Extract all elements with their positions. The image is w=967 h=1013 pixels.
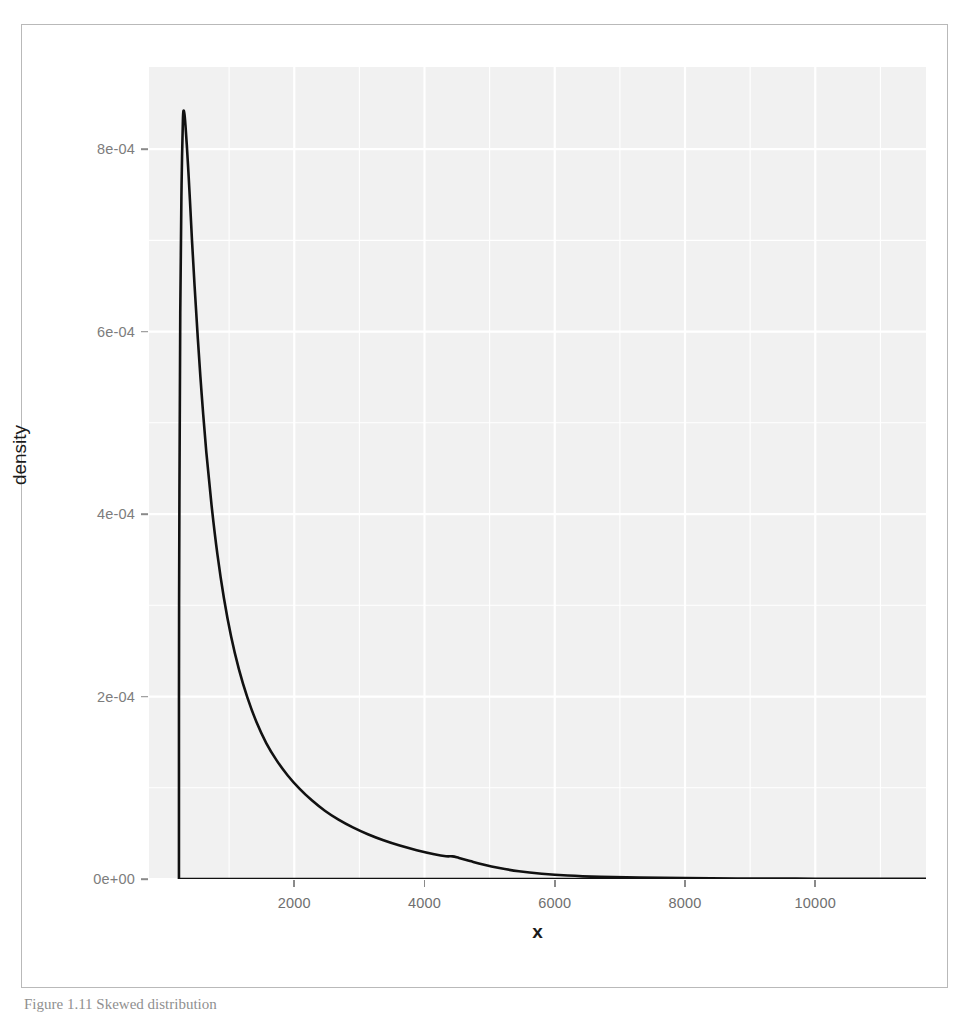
figure-frame: 0e+002e-044e-046e-048e-04 density 200040… [21,24,948,988]
y-tick-label: 2e-04 [61,689,135,705]
x-tick-mark [293,880,295,887]
y-tick-mark [141,878,148,880]
grid-minor [149,67,926,879]
x-tick-label: 2000 [254,895,334,911]
x-tick-mark [684,880,686,887]
density-curve [179,110,926,879]
y-axis-title: density [9,395,31,515]
y-tick-mark [141,331,148,333]
y-tick-label: 6e-04 [61,324,135,340]
x-tick-label: 8000 [645,895,725,911]
grid-major [149,67,926,879]
x-tick-mark [814,880,816,887]
figure-caption: Figure 1.11 Skewed distribution [24,996,217,1013]
y-tick-label: 8e-04 [61,141,135,157]
x-tick-label: 6000 [515,895,595,911]
y-tick-mark [141,148,148,150]
x-tick-label: 4000 [384,895,464,911]
x-tick-mark [424,880,426,887]
y-tick-mark [141,513,148,515]
plot-panel [149,67,926,879]
plot-canvas [149,67,926,879]
density-plot: 0e+002e-044e-046e-048e-04 density 200040… [22,25,949,989]
y-tick-label: 0e+00 [61,871,135,887]
y-tick-label: 4e-04 [61,506,135,522]
x-axis-title: x [149,921,926,943]
x-tick-label: 10000 [775,895,855,911]
x-tick-mark [554,880,556,887]
y-tick-mark [141,696,148,698]
